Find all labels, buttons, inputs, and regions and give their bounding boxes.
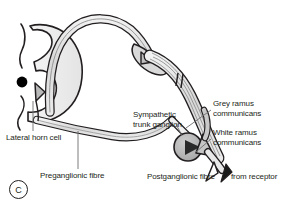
lateral-horn-cell-soma xyxy=(17,77,28,88)
label-lateral-horn-cell: Lateral horn cell xyxy=(6,133,61,143)
label-white-ramus-communicans: White ramus communicans xyxy=(213,128,261,147)
label-sympathetic-trunk-ganglion: Sympathetic trunk ganglion xyxy=(133,110,182,129)
panel-letter-badge: C xyxy=(9,180,28,199)
label-grey-ramus-line1: Grey ramus xyxy=(213,99,254,108)
label-preganglionic-fibre: Preganglionic fibre xyxy=(40,171,104,181)
label-sympathetic-line1: Sympathetic xyxy=(133,110,176,119)
label-grey-ramus-communicans: Grey ramus communicans xyxy=(213,99,261,118)
label-white-ramus-line2: communicans xyxy=(213,138,261,147)
label-postganglionic-fibre: Postganglionic fibre xyxy=(147,172,215,182)
label-sympathetic-line2: trunk ganglion xyxy=(133,120,182,129)
label-white-ramus-line1: White ramus xyxy=(213,128,257,137)
label-from-receptor: from receptor xyxy=(231,172,277,182)
label-grey-ramus-line2: communicans xyxy=(213,109,261,118)
